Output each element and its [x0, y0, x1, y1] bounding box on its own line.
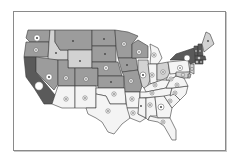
- marker-id: [55, 52, 57, 54]
- marker-wi: [137, 50, 142, 55]
- marker-mi: [152, 53, 156, 57]
- marker-tx: [106, 109, 110, 113]
- marker-nj: [190, 67, 193, 70]
- marker-ma: [198, 57, 201, 60]
- us-choropleth-map: [0, 0, 234, 159]
- marker-vt: [195, 50, 197, 52]
- marker-nv: [46, 74, 52, 80]
- marker-nh: [199, 50, 201, 52]
- marker-mn: [122, 42, 126, 46]
- marker-az: [64, 97, 68, 101]
- state-nd[interactable]: [92, 30, 116, 46]
- state-sd[interactable]: [92, 46, 116, 62]
- marker-nd: [103, 38, 105, 40]
- marker-ne: [104, 66, 109, 71]
- state-mt[interactable]: [55, 30, 92, 50]
- marker-or: [34, 48, 38, 52]
- marker-ga: [158, 104, 164, 110]
- marker-me: [207, 40, 209, 42]
- marker-in: [150, 73, 154, 77]
- marker-ok: [112, 92, 116, 96]
- marker-sd: [104, 53, 106, 55]
- marker-co: [84, 77, 88, 81]
- marker-oh: [161, 70, 165, 74]
- marker-al: [148, 103, 152, 107]
- marker-ct: [196, 61, 198, 63]
- marker-mo: [129, 79, 133, 83]
- marker-wa: [34, 35, 40, 41]
- marker-md: [181, 73, 185, 77]
- state-me[interactable]: [202, 32, 214, 52]
- marker-de: [188, 75, 189, 76]
- marker-pa: [177, 65, 182, 70]
- marker-ks: [110, 81, 112, 83]
- marker-ia: [126, 64, 128, 66]
- state-az[interactable]: [52, 86, 75, 108]
- marker-tn: [150, 91, 154, 95]
- state-fl[interactable]: [148, 116, 176, 140]
- marker-ut: [64, 76, 68, 80]
- marker-nm: [83, 96, 87, 100]
- marker-mt: [72, 40, 74, 42]
- marker-il: [140, 72, 146, 78]
- state-wi[interactable]: [132, 40, 148, 58]
- marker-sc: [168, 99, 172, 103]
- marker-va: [175, 83, 179, 87]
- marker-wv: [169, 77, 173, 81]
- marker-ca: [35, 82, 43, 90]
- marker-ms: [140, 105, 142, 107]
- marker-ar: [130, 97, 134, 101]
- marker-ky: [153, 83, 157, 87]
- state-wy[interactable]: [68, 50, 92, 68]
- marker-nc: [173, 91, 177, 95]
- marker-fl: [161, 120, 165, 124]
- marker-wy: [79, 60, 81, 62]
- state-ia[interactable]: [118, 58, 138, 72]
- marker-la: [131, 111, 135, 115]
- marker-ri: [200, 61, 202, 63]
- marker-ny: [184, 55, 190, 61]
